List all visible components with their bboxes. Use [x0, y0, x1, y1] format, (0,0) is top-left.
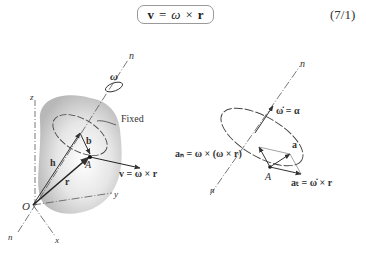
label-alpha: ω̇ = α	[276, 105, 300, 116]
label-an: aₙ = ω × (ω × r)	[175, 148, 242, 160]
label-n-top-right: n	[300, 58, 305, 69]
label-A-left: A	[84, 159, 92, 170]
rigid-body-shape	[38, 95, 121, 213]
label-fixed: Fixed	[121, 113, 144, 124]
label-A-right: A	[264, 171, 272, 182]
label-n-bottom-left: n	[8, 232, 13, 242]
label-n-bottom-right: n	[210, 185, 215, 195]
label-z: z	[29, 92, 34, 102]
label-y: y	[113, 189, 118, 199]
label-r: r	[65, 176, 70, 187]
label-b: b	[86, 135, 92, 146]
label-n-top-left: n	[129, 50, 134, 61]
label-O: O	[22, 200, 30, 212]
rigid-body-figure: n ω z Fixed b h A v = ω × r r O y n x	[8, 50, 158, 245]
label-omega-left: ω	[110, 70, 118, 82]
label-velocity: v = ω × r	[119, 168, 158, 179]
acceleration-figure: n ω̇ = α a aₙ = ω × (ω × r) A aₜ = ω̇ × …	[175, 58, 333, 195]
label-at: aₜ = ω̇ × r	[291, 177, 333, 188]
kinematics-figure: n ω z Fixed b h A v = ω × r r O y n x n …	[0, 0, 366, 253]
label-x: x	[54, 235, 59, 245]
label-a: a	[292, 139, 297, 150]
label-h: h	[50, 157, 56, 168]
